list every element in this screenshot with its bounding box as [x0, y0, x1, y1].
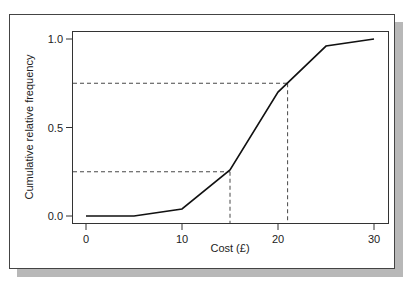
x-axis-label: Cost (£)	[210, 242, 249, 254]
x-tick-label: 10	[176, 233, 188, 245]
y-tick-label: 1.0	[48, 33, 63, 45]
x-tick-label: 0	[83, 233, 89, 245]
y-axis-label: Cumulative relative frequency	[23, 54, 35, 199]
x-tick-label: 20	[272, 233, 284, 245]
plot-area	[73, 32, 389, 224]
y-tick-label: 0.5	[48, 122, 63, 134]
y-tick-label: 0.0	[48, 210, 63, 222]
x-tick-label: 30	[368, 233, 380, 245]
chart-figure: 0.00.51.0 0102030 Cost (£) Cumulative re…	[0, 0, 420, 288]
